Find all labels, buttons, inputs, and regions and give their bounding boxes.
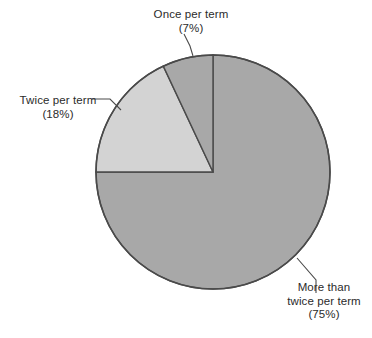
label-once-per-term: Once per term (7%) bbox=[139, 8, 243, 35]
label-more-than-twice-per-term-text-line1: More than bbox=[278, 281, 370, 295]
label-once-per-term-percent: (7%) bbox=[139, 22, 243, 36]
label-twice-per-term: Twice per term (18%) bbox=[6, 94, 110, 121]
label-twice-per-term-text: Twice per term bbox=[6, 94, 110, 108]
label-more-than-twice-per-term-text-line2: twice per term bbox=[278, 295, 370, 309]
label-twice-per-term-percent: (18%) bbox=[6, 108, 110, 122]
label-more-than-twice-per-term: More than twice per term (75%) bbox=[278, 281, 370, 322]
label-once-per-term-text: Once per term bbox=[139, 8, 243, 22]
leader-line-once-per-term bbox=[184, 34, 193, 56]
label-more-than-twice-per-term-percent: (75%) bbox=[278, 308, 370, 322]
pie-chart: Once per term (7%) Twice per term (18%) … bbox=[0, 0, 372, 338]
